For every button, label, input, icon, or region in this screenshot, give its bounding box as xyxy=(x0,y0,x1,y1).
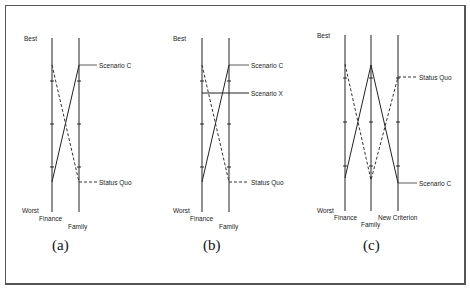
finance-axis-label: Finance xyxy=(190,215,214,222)
best-label: Best xyxy=(317,32,330,39)
scenario-x-label: Scenario X xyxy=(251,90,283,97)
scenario-c-label: Scenario C xyxy=(419,180,451,187)
family-axis-label: Family xyxy=(361,221,381,229)
panel-c: Best Status Quo Scenario C Worst Finance… xyxy=(317,32,452,254)
parallel-coordinates-figure: Best Scenario C Status Quo Worst Finance… xyxy=(0,0,470,290)
panel-a: Best Scenario C Status Quo Worst Finance… xyxy=(22,35,132,254)
finance-axis-label: Finance xyxy=(39,215,63,222)
caption-b: (b) xyxy=(203,237,221,254)
scenario-c-label: Scenario C xyxy=(251,62,283,69)
scenario-c-label: Scenario C xyxy=(99,62,131,69)
family-axis-label: Family xyxy=(219,223,239,231)
worst-label: Worst xyxy=(317,207,334,214)
worst-label: Worst xyxy=(173,207,190,214)
panel-b: Best Scenario C Scenario X Status Quo Wo… xyxy=(173,35,284,254)
worst-label: Worst xyxy=(22,207,39,214)
caption-c: (c) xyxy=(363,237,380,254)
status-quo-label: Status Quo xyxy=(251,179,284,187)
family-axis-label: Family xyxy=(68,223,88,231)
finance-axis-label: Finance xyxy=(334,214,358,221)
caption-a: (a) xyxy=(52,237,69,254)
best-label: Best xyxy=(24,35,37,42)
best-label: Best xyxy=(173,35,186,42)
status-quo-label: Status Quo xyxy=(419,74,452,82)
status-quo-label: Status Quo xyxy=(99,179,132,187)
new-criterion-axis-label: New Criterion xyxy=(378,214,418,221)
